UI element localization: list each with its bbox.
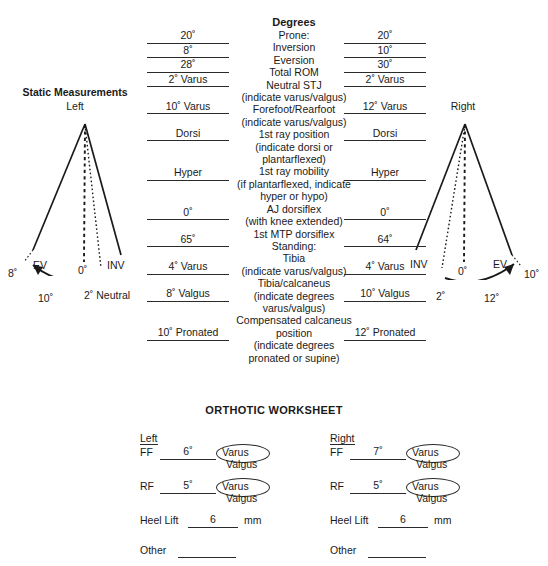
left-outer-angle-label: 8˚ xyxy=(8,267,17,279)
right-pad-10 xyxy=(344,302,426,327)
left-pad-3 xyxy=(147,87,229,99)
heel-lift-unit-right: mm xyxy=(434,514,452,527)
right-pad-9 xyxy=(344,275,426,287)
ff-label-left: FF xyxy=(140,446,153,459)
left-value-3[interactable]: 2˚ Varus xyxy=(147,73,229,88)
heel-lift-value-right[interactable]: 6 xyxy=(378,514,428,528)
right-value-4[interactable]: 12˚ Varus xyxy=(344,100,426,115)
left-values-column: 20˚8˚28˚2˚ Varus10˚ VarusDorsiHyper0˚65˚… xyxy=(147,16,229,378)
left-value-1[interactable]: 8˚ xyxy=(147,44,229,59)
row-note-5: (indicate dorsi or xyxy=(234,141,354,153)
other-label-right: Other xyxy=(330,544,356,557)
worksheet-right-rf-row: RF 5˚ Varus Valgus xyxy=(330,480,510,514)
left-pad-4 xyxy=(147,114,229,126)
row-label-11: Compensated calcaneus xyxy=(234,314,354,326)
right-pad-4 xyxy=(344,114,426,126)
left-pad-6 xyxy=(147,181,229,206)
right-arc-value-label: 12˚ xyxy=(484,292,499,304)
rf-value-right[interactable]: 5˚ xyxy=(350,480,406,494)
row-note-7: (with knee extended) xyxy=(234,215,354,227)
left-value-4[interactable]: 10˚ Varus xyxy=(147,100,229,115)
ff-value-right[interactable]: 7˚ xyxy=(350,446,406,460)
right-value-7[interactable]: 0˚ xyxy=(344,206,426,221)
ff-value-left[interactable]: 6˚ xyxy=(160,446,216,460)
left-value-7[interactable]: 0˚ xyxy=(147,206,229,221)
left-value-10[interactable]: 8˚ Valgus xyxy=(147,287,229,302)
row-label-6: 1st ray mobility xyxy=(234,165,354,177)
left-zero-label: 0˚ xyxy=(78,264,87,276)
rf-label-right: RF xyxy=(330,480,344,493)
right-cone-graphic xyxy=(408,112,548,280)
right-value-2[interactable]: 30˚ xyxy=(344,58,426,73)
left-value-5[interactable]: Dorsi xyxy=(147,127,229,142)
worksheet-left-header: Left xyxy=(140,432,158,445)
rf-label-left: RF xyxy=(140,480,154,493)
left-value-6[interactable]: Hyper xyxy=(147,166,229,181)
other-value-right[interactable] xyxy=(368,544,426,558)
left-cone-graphic xyxy=(0,112,150,276)
orthotic-worksheet-title: ORTHOTIC WORKSHEET xyxy=(0,404,548,416)
ff-option-valgus-left[interactable]: Valgus xyxy=(226,458,257,471)
row-label-7: AJ dorsiflex xyxy=(234,203,354,215)
left-value-11[interactable]: 10˚ Pronated xyxy=(147,326,229,341)
right-section-gap-1 xyxy=(344,247,426,260)
rf-option-valgus-left[interactable]: Valgus xyxy=(226,492,257,505)
worksheet-right-header: Right xyxy=(330,432,355,445)
row-label-4: Forefoot/Rearfoot xyxy=(234,103,354,115)
worksheet-left-rf-row: RF 5˚ Varus Valgus xyxy=(140,480,320,514)
worksheet-right-ff-row: FF 7˚ Varus Valgus xyxy=(330,446,510,480)
right-zero-label: 0˚ xyxy=(458,265,467,277)
row-label-2: Total ROM xyxy=(234,66,354,78)
worksheet-right-other-row: Other xyxy=(330,544,510,566)
heel-lift-unit-left: mm xyxy=(244,514,262,527)
left-value-2[interactable]: 28˚ xyxy=(147,58,229,73)
ff-option-valgus-right[interactable]: Valgus xyxy=(416,458,447,471)
rf-value-left[interactable]: 5˚ xyxy=(160,480,216,494)
left-value-9[interactable]: 4˚ Varus xyxy=(147,260,229,275)
right-value-3[interactable]: 2˚ Varus xyxy=(344,73,426,88)
row-note-11: (indicate degrees xyxy=(234,339,354,351)
worksheet-left-heel-row: Heel Lift 6 mm xyxy=(140,514,320,544)
left-foot-diagram: Static Measurements Left EV 0˚ INV 8˚ 10… xyxy=(0,86,150,276)
measurement-description-column: DegreesProne:InversionEversionTotal ROMN… xyxy=(234,16,354,364)
row-label-0: Inversion xyxy=(234,41,354,53)
left-spacer-top xyxy=(147,16,229,29)
right-pad-3 xyxy=(344,87,426,99)
left-side-label: Left xyxy=(0,100,150,112)
ff-label-right: FF xyxy=(330,446,343,459)
right-foot-diagram: Right INV 0˚ EV 10˚ 12˚ 2˚ xyxy=(408,100,548,280)
right-value-6[interactable]: Hyper xyxy=(344,166,426,181)
right-values-column: 20˚10˚30˚2˚ Varus12˚ VarusDorsiHyper0˚64… xyxy=(344,16,426,378)
right-value-9[interactable]: 4˚ Varus xyxy=(344,260,426,275)
right-value-11[interactable]: 12˚ Pronated xyxy=(344,326,426,341)
row-note-5-cont: plantarflexed) xyxy=(234,153,354,165)
left-value-8[interactable]: 65˚ xyxy=(147,233,229,248)
right-value-8[interactable]: 64˚ xyxy=(344,233,426,248)
row-label-3: Neutral STJ xyxy=(234,79,354,91)
left-arc-value-label: 10˚ xyxy=(38,292,53,304)
left-neutral-label: 2˚ Neutral xyxy=(84,289,130,301)
right-value-0[interactable]: 20˚ xyxy=(344,29,426,44)
other-label-left: Other xyxy=(140,544,166,557)
right-value-10[interactable]: 10˚ Valgus xyxy=(344,287,426,302)
left-pad-9 xyxy=(147,275,229,287)
worksheet-left-ff-row: FF 6˚ Varus Valgus xyxy=(140,446,320,480)
left-pad-5 xyxy=(147,141,229,166)
row-note-6: (if plantarflexed, indicate xyxy=(234,178,354,190)
heel-lift-value-left[interactable]: 6 xyxy=(188,514,238,528)
right-ev-label: EV xyxy=(493,258,507,270)
right-value-5[interactable]: Dorsi xyxy=(344,127,426,142)
right-pad-6 xyxy=(344,181,426,206)
rf-option-valgus-right[interactable]: Valgus xyxy=(416,492,447,505)
other-value-left[interactable] xyxy=(178,544,236,558)
section-heading-0: Prone: xyxy=(234,29,354,41)
left-value-0[interactable]: 20˚ xyxy=(147,29,229,44)
left-section-gap-1 xyxy=(147,247,229,260)
row-label-9: Tibia xyxy=(234,252,354,264)
worksheet-left-header-wrap: Left xyxy=(140,428,320,446)
row-note-3: (indicate varus/valgus) xyxy=(234,91,354,103)
right-outer-angle-label: 10˚ xyxy=(524,268,539,280)
right-value-1[interactable]: 10˚ xyxy=(344,44,426,59)
left-pad-7 xyxy=(147,220,229,232)
row-note-10: (indicate degrees xyxy=(234,290,354,302)
